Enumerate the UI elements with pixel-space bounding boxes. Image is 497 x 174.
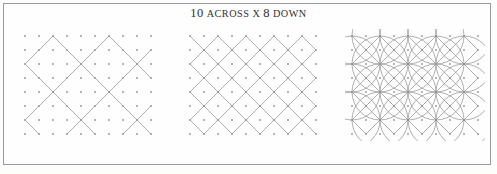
figure-caption: 10 ACROSS X 8 DOWN xyxy=(0,6,497,21)
panel-circle-rosette-lattice xyxy=(345,29,485,141)
caption-down-word: DOWN xyxy=(273,8,307,19)
caption-across-count: 10 xyxy=(190,6,203,20)
caption-down-count: 8 xyxy=(263,6,270,20)
figure-container: 10 ACROSS X 8 DOWN xyxy=(0,0,497,174)
caption-across-word: ACROSS xyxy=(207,8,250,19)
panel-dense-diamond-lattice xyxy=(183,29,323,141)
panel-large-diamond-lattice xyxy=(18,29,158,141)
